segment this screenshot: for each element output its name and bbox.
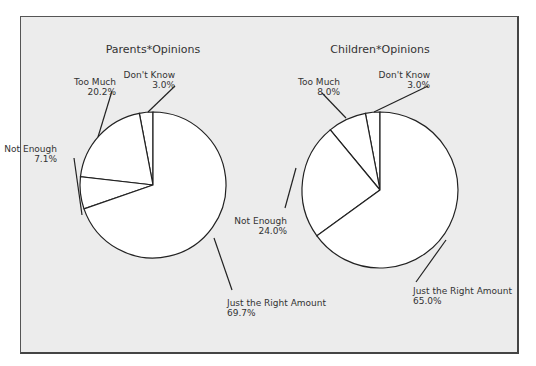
slice-value: 24.0% (258, 226, 287, 236)
slice-label: Don't Know (124, 70, 175, 80)
slice-label: Just the Right Amount (226, 298, 326, 308)
slice-value: 8.0% (317, 87, 340, 97)
slice-label: Too Much (73, 77, 116, 87)
pie-charts: Parents*OpinionsDon't Know3.0%Too Much20… (0, 0, 536, 366)
slice-label: Don't Know (379, 70, 430, 80)
slice-value: 3.0% (407, 80, 430, 90)
slice-label: Not Enough (4, 144, 57, 154)
chart-title: Children*Opinions (330, 43, 430, 56)
slice-value: 69.7% (227, 308, 256, 318)
chart-title: Parents*Opinions (106, 43, 201, 56)
slice-value: 65.0% (413, 296, 442, 306)
slice-value: 20.2% (87, 87, 116, 97)
slice-value: 7.1% (34, 154, 57, 164)
slice-label: Too Much (297, 77, 340, 87)
leader-line (285, 168, 296, 208)
slice-label: Not Enough (234, 216, 287, 226)
slice-label: Just the Right Amount (412, 286, 512, 296)
slice-value: 3.0% (152, 80, 175, 90)
pie-chart-parents: Parents*OpinionsDon't Know3.0%Too Much20… (4, 43, 326, 318)
pie-chart-children: Children*OpinionsDon't Know3.0%Too Much8… (234, 43, 512, 306)
leader-line (214, 238, 232, 290)
